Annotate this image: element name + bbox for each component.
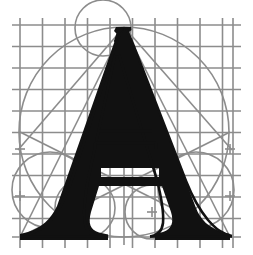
letter-construction-figure: Geometric construction of the Roman capi… — [0, 0, 253, 255]
construction-canvas — [0, 0, 253, 255]
